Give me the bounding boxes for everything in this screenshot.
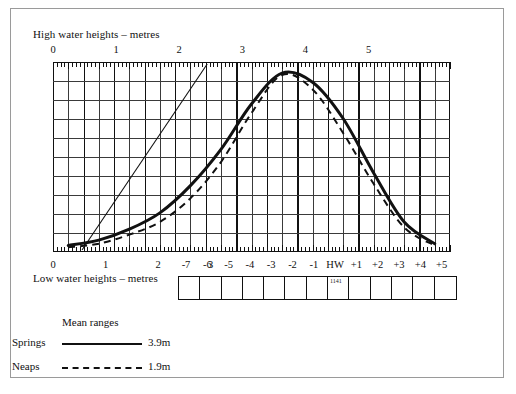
time-box[interactable] — [243, 277, 264, 299]
hour-tick-label: +4 — [415, 259, 426, 270]
top-tick-label: 1 — [113, 44, 118, 55]
time-box[interactable] — [200, 277, 221, 299]
tick-mark — [450, 62, 451, 69]
hw-time-boxes[interactable]: 1141 — [178, 276, 457, 300]
hour-tick-label: -5 — [224, 259, 233, 270]
legend-line-sample — [62, 343, 142, 345]
time-box[interactable] — [435, 277, 456, 299]
time-box[interactable] — [371, 277, 392, 299]
neaps-curve — [68, 74, 434, 247]
time-box[interactable] — [222, 277, 243, 299]
hw-time-value: 1141 — [330, 278, 342, 284]
hour-tick-label: -2 — [288, 259, 297, 270]
top-tick-label: 0 — [50, 44, 55, 55]
legend-title: Mean ranges — [62, 316, 119, 328]
top-tick-label: 5 — [366, 44, 371, 55]
hour-tick-label: HW — [326, 259, 344, 270]
time-box[interactable] — [413, 277, 434, 299]
hour-tick-label: -4 — [246, 259, 255, 270]
top-tick-label: 2 — [177, 44, 182, 55]
legend-row: Neaps1.9m — [0, 358, 240, 378]
bottom-axis-label: Low water heights – metres — [33, 272, 158, 284]
hour-tick-label: +3 — [393, 259, 404, 270]
springs-curve — [68, 72, 434, 246]
legend-line-sample — [62, 367, 142, 369]
tidal-curve-figure: High water heights – metres Low water he… — [0, 0, 516, 394]
hour-tick-label: -7 — [182, 259, 191, 270]
tick-mark — [450, 245, 451, 252]
legend-value: 3.9m — [148, 336, 170, 348]
legend: Mean ranges Springs3.9mNeaps1.9m — [0, 316, 260, 376]
legend-label: Springs — [12, 336, 46, 348]
low-water-tick-label: 2 — [155, 259, 160, 270]
time-box[interactable] — [264, 277, 285, 299]
hour-tick-label: +5 — [436, 259, 447, 270]
legend-value: 1.9m — [148, 360, 170, 372]
hour-tick-label: -6 — [203, 259, 212, 270]
time-box[interactable] — [179, 277, 200, 299]
top-axis-label: High water heights – metres — [33, 28, 160, 40]
tidal-curves — [53, 62, 450, 252]
hour-tick-label: +2 — [372, 259, 383, 270]
time-box[interactable] — [307, 277, 328, 299]
top-tick-label: 3 — [240, 44, 245, 55]
time-box[interactable] — [392, 277, 413, 299]
tidal-plot-grid — [53, 62, 450, 252]
time-box[interactable] — [349, 277, 370, 299]
hour-tick-label: -1 — [309, 259, 318, 270]
top-tick-label: 4 — [303, 44, 308, 55]
low-water-tick-label: 1 — [103, 259, 108, 270]
legend-row: Springs3.9m — [0, 334, 240, 354]
legend-label: Neaps — [12, 360, 40, 372]
hw-time-box[interactable]: 1141 — [328, 277, 349, 299]
time-box[interactable] — [285, 277, 306, 299]
hour-tick-label: +1 — [351, 259, 362, 270]
low-water-tick-label: 0 — [50, 259, 55, 270]
hour-tick-label: -3 — [267, 259, 276, 270]
